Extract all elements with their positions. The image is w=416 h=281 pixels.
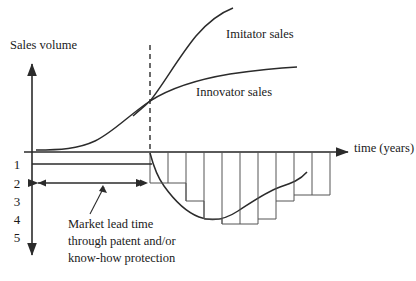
annotation-pointer-head bbox=[99, 185, 107, 193]
lead-arrow-left-head bbox=[38, 180, 46, 187]
innovator-sales-curve bbox=[36, 67, 297, 150]
labels-group: Sales volume time (years) Imitator sales… bbox=[10, 27, 414, 265]
y-tick-label-3: 3 bbox=[14, 194, 21, 209]
diagram-canvas: Sales volume time (years) Imitator sales… bbox=[0, 0, 416, 281]
innovator-sales-label: Innovator sales bbox=[196, 85, 272, 99]
y-tick-label-1: 1 bbox=[14, 157, 21, 172]
y-tick-label-2: 2 bbox=[14, 176, 21, 191]
cash-flow-curve bbox=[150, 153, 307, 219]
y-tick-label-4: 4 bbox=[14, 212, 21, 227]
annotation-line-1: Market lead time bbox=[68, 217, 154, 231]
y-axis-label: Sales volume bbox=[10, 38, 77, 52]
product-lifecycle-diagram: Sales volume time (years) Imitator sales… bbox=[0, 0, 416, 281]
tick-guides-group bbox=[32, 164, 152, 214]
imitator-sales-curve bbox=[133, 8, 233, 116]
cost-bars-group bbox=[150, 152, 330, 224]
annotation-line-3: know-how protection bbox=[68, 251, 176, 265]
annotation-line-2: through patent and/or bbox=[68, 234, 176, 248]
y-tick-label-5: 5 bbox=[14, 230, 21, 245]
imitator-sales-label: Imitator sales bbox=[226, 27, 294, 41]
lead-arrow-right-head bbox=[140, 180, 148, 187]
x-axis-label: time (years) bbox=[354, 141, 414, 155]
